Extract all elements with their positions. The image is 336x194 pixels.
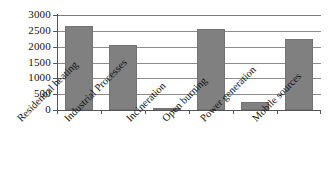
y-axis-label-3000: 3000	[0, 9, 51, 20]
y-axis-label-2000: 2000	[0, 41, 51, 52]
y-axis-label-1000: 1000	[0, 72, 51, 83]
y-axis-label-2500: 2500	[0, 25, 51, 36]
y-axis-label-1500: 1500	[0, 57, 51, 68]
bar-chart: 3000 2500 2000 1500 1000 500 0 Residenti…	[0, 0, 336, 194]
x-axis-labels: Residential heating Industrial Processes…	[0, 110, 336, 194]
